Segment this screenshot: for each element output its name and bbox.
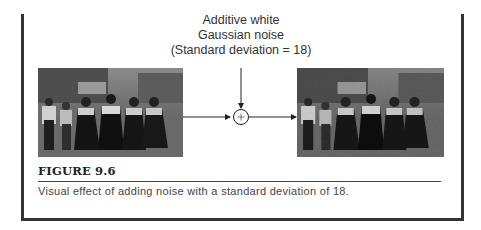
input-image: [38, 68, 183, 157]
figure-caption: Visual effect of adding noise with a sta…: [38, 185, 349, 197]
noise-label: Additive white Gaussian noise (Standard …: [150, 13, 332, 58]
figure-title: FIGURE 9.6: [38, 164, 116, 178]
noise-label-line3: (Standard deviation = 18): [150, 43, 332, 58]
output-image: [297, 68, 444, 157]
noise-label-line2: Gaussian noise: [150, 28, 332, 43]
photo-original: [38, 68, 183, 157]
title-rule: [38, 181, 441, 182]
noise-label-line1: Additive white: [150, 13, 332, 28]
photo-noisy: [297, 68, 444, 157]
